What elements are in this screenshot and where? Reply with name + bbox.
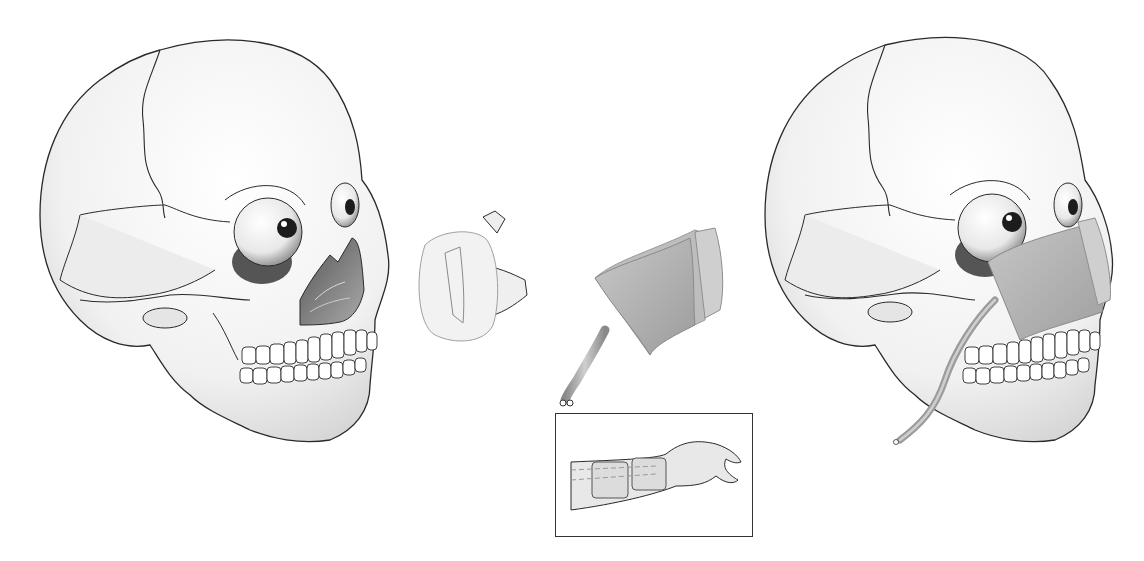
skull-left-illustration <box>0 0 420 470</box>
free-flap-with-pedicle <box>555 210 755 410</box>
skull-with-defect <box>0 0 420 470</box>
forearm-illustration <box>556 414 751 535</box>
skull-with-flap <box>740 0 1144 470</box>
flap-illustration <box>555 210 755 410</box>
obturator-illustration <box>405 205 545 350</box>
forearm-donor-inset <box>555 413 753 537</box>
obturator-piece <box>405 205 545 350</box>
skull-right-illustration <box>740 0 1144 470</box>
